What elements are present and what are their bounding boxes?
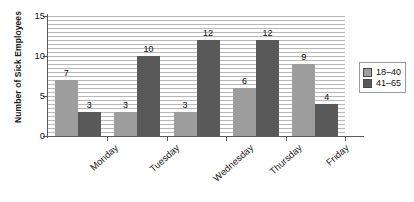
bar — [174, 112, 197, 136]
y-axis-tick-label: 5 — [15, 90, 45, 101]
bar-value-label: 3 — [74, 100, 105, 110]
x-axis-category-label: Tuesday — [148, 142, 182, 174]
bar-value-label: 4 — [311, 92, 342, 102]
y-axis-tick-label: 0 — [15, 130, 45, 141]
bar — [233, 88, 256, 136]
x-axis-tick-mark — [107, 136, 108, 141]
bar-value-label: 12 — [252, 28, 283, 38]
bar — [114, 112, 137, 136]
bar — [315, 104, 338, 136]
legend-item-label: 41–65 — [376, 78, 401, 88]
x-axis-category-label: Wednesday — [211, 142, 256, 184]
bar-value-label: 9 — [288, 52, 319, 62]
legend-swatch-icon — [363, 79, 372, 88]
bar — [78, 112, 101, 136]
bar-value-label: 7 — [51, 68, 82, 78]
bar — [256, 40, 279, 136]
legend-item-label: 18–40 — [376, 67, 401, 77]
bar — [137, 56, 160, 136]
x-axis-category-label: Thursday — [267, 142, 304, 177]
x-axis-category-label: Friday — [323, 142, 350, 168]
x-axis-tick-mark — [167, 136, 168, 141]
bars-layer: 7331031261294 — [48, 16, 345, 136]
legend-item[interactable]: 18–40 — [363, 67, 401, 77]
x-axis-tick-mark — [286, 136, 287, 141]
y-axis-tick-label: 10 — [15, 50, 45, 61]
x-axis-tick-mark — [226, 136, 227, 141]
bar-value-label: 12 — [193, 28, 224, 38]
bar — [197, 40, 220, 136]
y-axis-tick-label: 15 — [15, 10, 45, 21]
x-axis-line — [44, 136, 364, 137]
bar-value-label: 10 — [133, 44, 164, 54]
legend-swatch-icon — [363, 68, 372, 77]
bar-chart: Number of Sick Employees 051015 73310312… — [0, 0, 414, 202]
legend-item[interactable]: 41–65 — [363, 78, 401, 88]
legend: 18–40 41–65 — [359, 62, 406, 93]
x-axis-category-label: Monday — [88, 142, 120, 173]
x-axis-tick-mark — [345, 136, 346, 141]
